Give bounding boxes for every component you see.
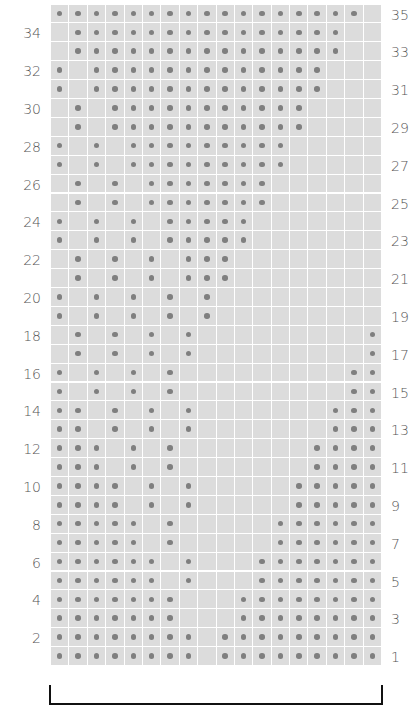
stitch-cell-dot [217, 231, 234, 249]
stitch-cell [235, 326, 252, 344]
stitch-cell-dot [88, 590, 105, 608]
stitch-cell-dot [180, 212, 197, 230]
stitch-cell [180, 383, 197, 401]
stitch-cell-dot [143, 5, 160, 23]
stitch-cell [308, 420, 325, 438]
stitch-cell-dot [345, 647, 362, 665]
stitch-cell [161, 345, 178, 363]
row-label-15: 15 [391, 384, 409, 402]
stitch-cell-dot [88, 496, 105, 514]
stitch-cell-dot [345, 364, 362, 382]
stitch-cell-dot [69, 515, 86, 533]
stitch-cell [88, 194, 105, 212]
stitch-cell-dot [272, 515, 289, 533]
stitch-cell [272, 212, 289, 230]
stitch-cell [327, 383, 344, 401]
stitch-cell-dot [217, 42, 234, 60]
stitch-cell [345, 156, 362, 174]
stitch-cell-dot [125, 307, 142, 325]
stitch-cell-dot [308, 553, 325, 571]
stitch-cell [217, 345, 234, 363]
stitch-cell [327, 250, 344, 268]
row-label-1: 1 [391, 648, 409, 666]
stitch-cell-dot [235, 194, 252, 212]
stitch-cell-dot [106, 647, 123, 665]
stitch-cell [345, 61, 362, 79]
stitch-cell-dot [180, 553, 197, 571]
stitch-cell [69, 80, 86, 98]
stitch-cell [161, 553, 178, 571]
stitch-cell [217, 590, 234, 608]
stitch-cell-dot [235, 175, 252, 193]
stitch-cell [290, 175, 307, 193]
stitch-cell [88, 118, 105, 136]
stitch-cell-dot [106, 515, 123, 533]
stitch-cell-dot [143, 137, 160, 155]
row-label-13: 13 [391, 421, 409, 439]
stitch-cell-dot [106, 269, 123, 287]
stitch-cell [327, 137, 344, 155]
stitch-cell [161, 420, 178, 438]
stitch-cell [308, 250, 325, 268]
stitch-cell-dot [345, 553, 362, 571]
row-label-26: 26 [0, 176, 41, 194]
stitch-cell-dot [253, 137, 270, 155]
stitch-cell-dot [106, 42, 123, 60]
stitch-cell [217, 439, 234, 457]
row-label-20: 20 [0, 289, 41, 307]
stitch-cell-dot [327, 5, 344, 23]
stitch-cell-dot [235, 137, 252, 155]
stitch-cell [272, 175, 289, 193]
stitch-cell [217, 364, 234, 382]
stitch-cell-dot [125, 23, 142, 41]
stitch-cell [88, 401, 105, 419]
stitch-cell-dot [217, 212, 234, 230]
stitch-cell-dot [180, 345, 197, 363]
stitch-cell-dot [198, 175, 215, 193]
stitch-cell [327, 99, 344, 117]
stitch-cell [125, 175, 142, 193]
stitch-cell-dot [69, 534, 86, 552]
stitch-cell-dot [161, 137, 178, 155]
chart-row-3 [51, 609, 382, 628]
stitch-cell [327, 307, 344, 325]
stitch-cell-dot [69, 647, 86, 665]
stitch-cell-dot [69, 609, 86, 627]
stitch-cell-dot [308, 23, 325, 41]
stitch-cell [364, 175, 381, 193]
stitch-cell-dot [235, 609, 252, 627]
stitch-cell [327, 175, 344, 193]
stitch-cell-dot [290, 553, 307, 571]
stitch-cell-dot [88, 383, 105, 401]
stitch-cell-dot [125, 288, 142, 306]
stitch-cell [272, 401, 289, 419]
stitch-cell-dot [290, 647, 307, 665]
stitch-cell-dot [253, 647, 270, 665]
stitch-cell-dot [51, 458, 68, 476]
stitch-cell-dot [51, 288, 68, 306]
stitch-cell-dot [125, 5, 142, 23]
stitch-cell-dot [327, 42, 344, 60]
chart-row-31 [51, 80, 382, 99]
stitch-cell [345, 250, 362, 268]
row-label-6: 6 [0, 554, 41, 572]
row-label-5: 5 [391, 573, 409, 591]
stitch-cell-dot [69, 326, 86, 344]
stitch-cell [180, 590, 197, 608]
stitch-cell [125, 326, 142, 344]
stitch-cell-dot [180, 231, 197, 249]
stitch-cell [125, 477, 142, 495]
stitch-cell-dot [308, 647, 325, 665]
chart-row-25 [51, 194, 382, 213]
row-label-28: 28 [0, 138, 41, 156]
stitch-cell [308, 99, 325, 117]
stitch-cell [253, 345, 270, 363]
stitch-cell-dot [143, 61, 160, 79]
stitch-cell-dot [327, 572, 344, 590]
stitch-cell [106, 156, 123, 174]
chart-row-8 [51, 515, 382, 534]
row-label-35: 35 [391, 6, 409, 24]
stitch-cell-dot [217, 269, 234, 287]
stitch-cell [272, 477, 289, 495]
stitch-cell [327, 212, 344, 230]
